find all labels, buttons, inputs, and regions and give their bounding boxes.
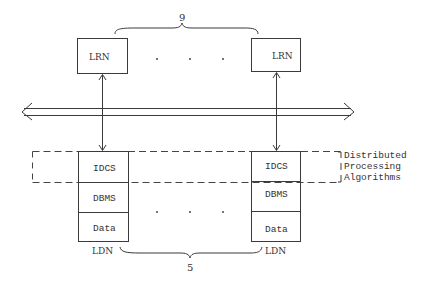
layer-dbms: DBMS [93,193,116,204]
connector-right [273,73,280,151]
layer-idcs: IDCS [265,161,288,172]
lrn-node-left: LRN [78,39,128,74]
top-brace [115,23,258,34]
bottom-brace [120,247,262,258]
lrn-label: LRN [272,51,293,61]
group-label-line-1: Distributed [344,150,407,161]
bottom-ellipsis [156,211,224,213]
bus-left-arrowhead-icon [22,103,32,120]
layer-dbms: DBMS [265,189,288,200]
ldn-node-right: IDCS DBMS Data [252,152,301,242]
layer-data: Data [265,224,288,235]
distributed-system-diagram: 9 LRN LRN Dis [0,0,425,284]
ldn-label-left: LDN [92,246,113,256]
layer-data: Data [93,223,116,234]
group-label-line-2: Processing [344,161,401,172]
ldn-label-right: LDN [265,246,286,256]
lrn-node-right: LRN [252,39,301,72]
group-label-line-3: Algorithms [344,172,401,183]
communication-bus [22,103,354,120]
top-count-label: 9 [179,12,185,23]
top-ellipsis [156,58,224,60]
bottom-count-label: 5 [187,262,193,273]
bus-right-arrowhead-icon [344,103,354,120]
connector-left [99,75,106,151]
layer-idcs: IDCS [93,163,116,174]
lrn-label: LRN [89,52,110,62]
ldn-node-left: IDCS DBMS Data [79,152,129,242]
